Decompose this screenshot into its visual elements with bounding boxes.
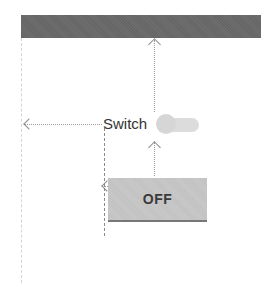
constraint-switch-left-line	[24, 124, 102, 125]
off-toggle-button[interactable]: OFF	[108, 178, 207, 222]
arrow-left-icon	[23, 118, 34, 129]
arrow-up-icon	[148, 38, 161, 51]
switch-thumb[interactable]	[156, 114, 176, 134]
switch-label[interactable]: Switch	[103, 115, 147, 133]
top-bar	[21, 15, 261, 38]
left-edge-guide	[21, 38, 22, 283]
off-toggle-label: OFF	[143, 191, 173, 207]
arrow-up-icon	[148, 141, 161, 154]
